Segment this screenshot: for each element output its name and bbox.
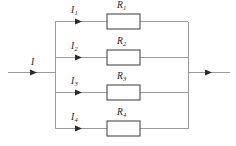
branch-1-current-label: I1 bbox=[71, 6, 77, 16]
resistor-body-3 bbox=[107, 85, 140, 100]
resistor-2-label: R2 bbox=[117, 37, 126, 47]
branch-3-current-label: I3 bbox=[71, 77, 77, 87]
branch-2-current-label: I2 bbox=[71, 42, 77, 52]
resistor-body-1 bbox=[107, 14, 140, 29]
resistor-4-label: R4 bbox=[117, 108, 126, 118]
branch-3-current-arrow-icon bbox=[75, 90, 82, 96]
resistor-body-4 bbox=[107, 121, 140, 136]
branch-1-current-arrow-icon bbox=[75, 19, 82, 25]
resistor-3-label: R3 bbox=[117, 72, 126, 82]
input-current-arrow-icon bbox=[30, 70, 37, 76]
branch-2-current-arrow-icon bbox=[75, 55, 82, 61]
resistor-body-2 bbox=[107, 50, 140, 65]
resistor-1-label: R1 bbox=[117, 1, 126, 11]
branch-4-current-arrow-icon bbox=[75, 126, 82, 132]
main-current-label: I bbox=[31, 58, 34, 68]
branch-4-current-label: I4 bbox=[71, 113, 77, 123]
circuit-diagram: I I1 R1 I2 R2 I3 R3 I4 R4 bbox=[0, 0, 236, 146]
output-current-arrow-icon bbox=[205, 70, 212, 76]
